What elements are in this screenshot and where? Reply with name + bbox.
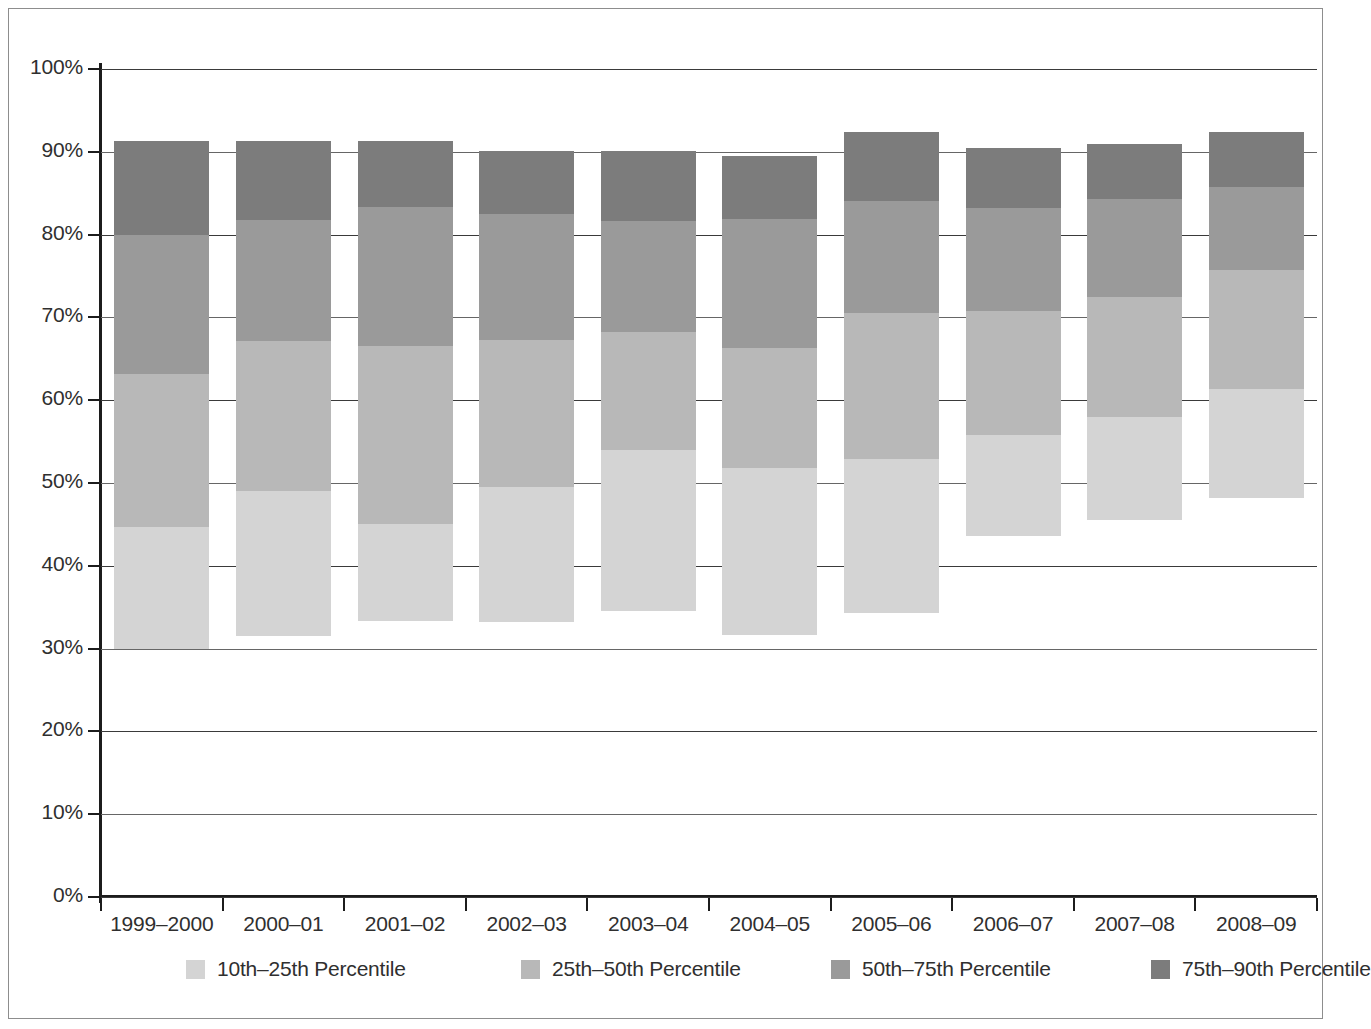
y-axis-label: 30% — [13, 635, 83, 659]
y-axis-label: 90% — [13, 138, 83, 162]
bar-segment[interactable] — [114, 141, 209, 235]
y-axis-label: 0% — [13, 883, 83, 907]
y-axis-label: 40% — [13, 552, 83, 576]
x-axis-label-8: 2007–08 — [1074, 912, 1196, 936]
legend-label: 50th–75th Percentile — [862, 957, 1051, 981]
bar-segment[interactable] — [844, 132, 939, 202]
x-axis-tick — [1194, 898, 1196, 911]
x-axis-tick — [343, 898, 345, 911]
x-axis-label-9: 2008–09 — [1195, 912, 1317, 936]
bar-segment[interactable] — [844, 201, 939, 313]
x-axis-tick — [100, 898, 102, 911]
legend-label: 10th–25th Percentile — [217, 957, 406, 981]
bar-segment[interactable] — [1087, 199, 1182, 297]
chart-figure-frame: 0%10%20%30%40%50%60%70%80%90%100% 1999–2… — [8, 8, 1323, 1019]
bar-group[interactable] — [966, 69, 1061, 897]
y-axis-label: 20% — [13, 717, 83, 741]
bar-segment[interactable] — [479, 487, 574, 622]
legend-item[interactable]: 75th–90th Percentile — [1151, 957, 1371, 981]
bar-segment[interactable] — [236, 491, 331, 636]
x-axis-label-4: 2003–04 — [587, 912, 709, 936]
legend-item[interactable]: 10th–25th Percentile — [186, 957, 406, 981]
chart-legend: 10th–25th Percentile25th–50th Percentile… — [101, 957, 1317, 997]
bar-segment[interactable] — [722, 219, 817, 348]
bar-segment[interactable] — [722, 468, 817, 635]
bar-segment[interactable] — [236, 220, 331, 341]
bar-segment[interactable] — [358, 141, 453, 207]
bar-segment[interactable] — [601, 332, 696, 450]
legend-swatch-icon — [521, 960, 540, 979]
x-axis-label-1: 2000–01 — [223, 912, 345, 936]
bar-group[interactable] — [722, 69, 817, 897]
bar-group[interactable] — [358, 69, 453, 897]
legend-label: 75th–90th Percentile — [1182, 957, 1371, 981]
legend-label: 25th–50th Percentile — [552, 957, 741, 981]
bar-segment[interactable] — [601, 221, 696, 332]
bar-segment[interactable] — [1209, 187, 1304, 271]
bar-group[interactable] — [236, 69, 331, 897]
bar-segment[interactable] — [1209, 132, 1304, 187]
bar-segment[interactable] — [1087, 144, 1182, 199]
y-axis-label: 60% — [13, 386, 83, 410]
bar-segment[interactable] — [966, 435, 1061, 536]
y-axis-label: 70% — [13, 303, 83, 327]
legend-item[interactable]: 50th–75th Percentile — [831, 957, 1051, 981]
x-axis-tick — [465, 898, 467, 911]
bar-segment[interactable] — [1087, 417, 1182, 521]
bar-segment[interactable] — [844, 313, 939, 459]
y-axis-label: 80% — [13, 221, 83, 245]
x-axis-tick — [708, 898, 710, 911]
bar-segment[interactable] — [114, 374, 209, 527]
bar-segment[interactable] — [966, 311, 1061, 435]
bar-segment[interactable] — [358, 207, 453, 346]
bar-segment[interactable] — [236, 341, 331, 492]
x-axis-label-2: 2001–02 — [344, 912, 466, 936]
bar-segment[interactable] — [358, 524, 453, 622]
bar-segment[interactable] — [601, 450, 696, 611]
bar-segment[interactable] — [966, 208, 1061, 311]
legend-swatch-icon — [186, 960, 205, 979]
y-axis-label: 10% — [13, 800, 83, 824]
bar-segment[interactable] — [114, 527, 209, 649]
x-axis-label-0: 1999–2000 — [101, 912, 223, 936]
bar-segment[interactable] — [601, 151, 696, 221]
x-axis-tick — [1316, 898, 1318, 911]
bar-group[interactable] — [479, 69, 574, 897]
bar-segment[interactable] — [722, 348, 817, 468]
y-axis-label: 100% — [13, 55, 83, 79]
bar-segment[interactable] — [114, 235, 209, 374]
bar-segment[interactable] — [236, 141, 331, 220]
bar-segment[interactable] — [1209, 389, 1304, 497]
plot-area — [101, 69, 1317, 897]
bar-segment[interactable] — [479, 340, 574, 487]
x-axis-label-7: 2006–07 — [952, 912, 1074, 936]
bar-group[interactable] — [1209, 69, 1304, 897]
bar-segment[interactable] — [479, 214, 574, 340]
x-axis-label-6: 2005–06 — [831, 912, 953, 936]
x-axis-label-3: 2002–03 — [466, 912, 588, 936]
bar-segment[interactable] — [844, 459, 939, 613]
legend-swatch-icon — [831, 960, 850, 979]
x-axis-tick — [1073, 898, 1075, 911]
bar-group[interactable] — [1087, 69, 1182, 897]
legend-item[interactable]: 25th–50th Percentile — [521, 957, 741, 981]
bar-segment[interactable] — [722, 156, 817, 219]
x-axis-tick — [222, 898, 224, 911]
x-axis-tick — [951, 898, 953, 911]
bar-segment[interactable] — [1087, 297, 1182, 417]
bar-group[interactable] — [844, 69, 939, 897]
bar-segment[interactable] — [966, 148, 1061, 208]
bar-segment[interactable] — [479, 151, 574, 214]
bar-segment[interactable] — [1209, 270, 1304, 389]
x-axis-tick — [586, 898, 588, 911]
legend-swatch-icon — [1151, 960, 1170, 979]
y-axis-label: 50% — [13, 469, 83, 493]
bar-group[interactable] — [114, 69, 209, 897]
x-axis-label-5: 2004–05 — [709, 912, 831, 936]
bar-segment[interactable] — [358, 346, 453, 523]
x-axis-tick — [830, 898, 832, 911]
bar-group[interactable] — [601, 69, 696, 897]
